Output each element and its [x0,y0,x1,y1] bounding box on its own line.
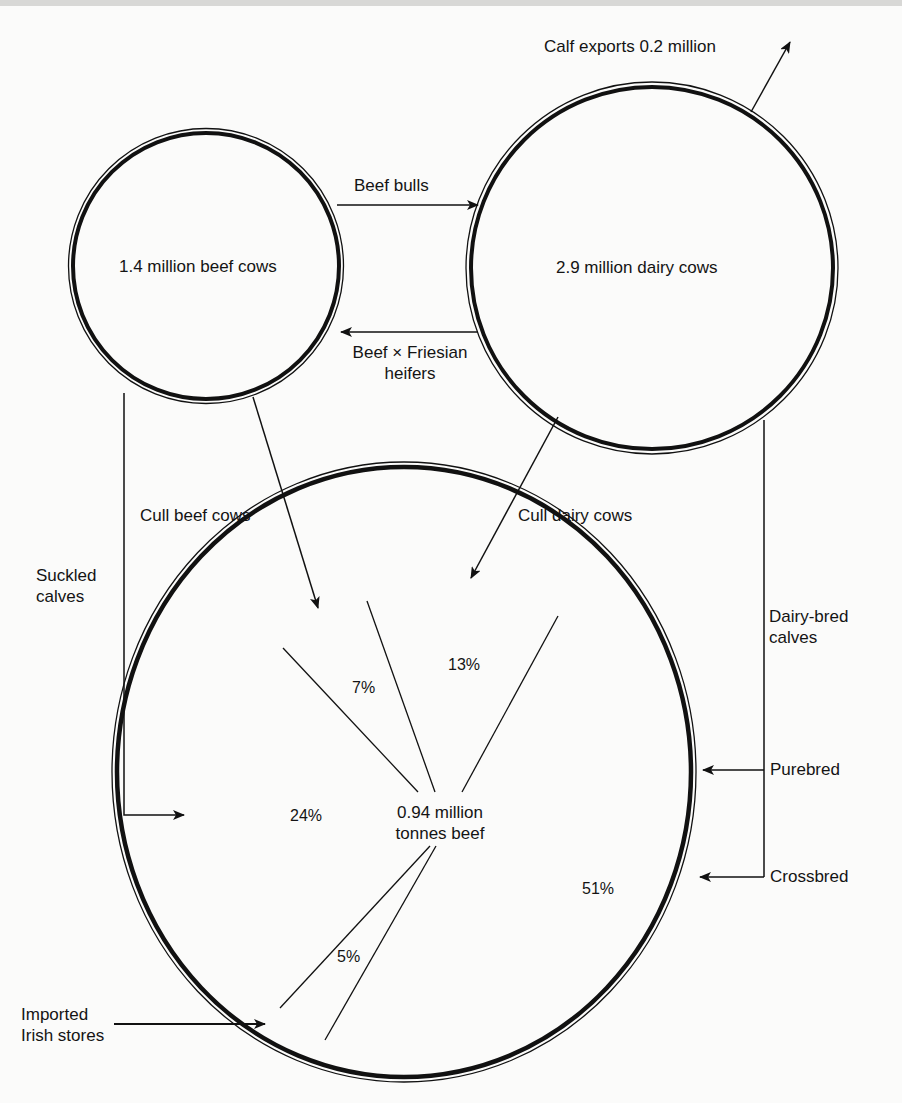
suckled-calves-line2: calves [36,586,96,607]
irish-line1: Imported [21,1004,104,1025]
beef-output-circle [112,462,696,1082]
segment-cull-beef-pct: 7% [352,679,375,697]
beef-bulls-label: Beef bulls [354,175,429,196]
beef-output-label-line2: tonnes beef [385,823,495,844]
dairy-bred-calves-label: Dairy-bred calves [769,606,848,648]
cull-beef-cows-arrow [253,397,318,608]
suckled-calves-label: Suckled calves [36,565,96,607]
cull-dairy-cows-label: Cull dairy cows [518,505,632,526]
suckled-calves-line1: Suckled [36,565,96,586]
beef-output-label: 0.94 million tonnes beef [385,802,495,844]
purebred-label: Purebred [770,759,840,780]
cull-beef-cows-label: Cull beef cows [140,505,251,526]
crossbred-label: Crossbred [770,866,848,887]
dairy-bred-line2: calves [769,627,848,648]
dairy-bred-line1: Dairy-bred [769,606,848,627]
beef-production-flow-diagram [0,0,902,1103]
beef-friesian-label-line2: heifers [335,363,485,384]
beef-output-label-line1: 0.94 million [385,802,495,823]
segment-cull-dairy-pct: 13% [448,656,480,674]
calf-exports-arrow [751,42,790,112]
segment-irish-pct: 5% [337,948,360,966]
irish-line2: Irish stores [21,1025,104,1046]
dairy-cows-label: 2.9 million dairy cows [556,257,718,278]
suckled-calves-arrow [124,393,184,815]
imported-irish-stores-label: Imported Irish stores [21,1004,104,1046]
beef-cows-label: 1.4 million beef cows [119,256,277,277]
calf-exports-label: Calf exports 0.2 million [544,36,716,57]
cull-dairy-cows-arrow [471,417,558,578]
segment-dairy-bred-pct: 51% [582,880,614,898]
beef-friesian-label-line1: Beef × Friesian [335,342,485,363]
beef-friesian-heifers-label: Beef × Friesian heifers [335,342,485,384]
segment-suckled-pct: 24% [290,807,322,825]
